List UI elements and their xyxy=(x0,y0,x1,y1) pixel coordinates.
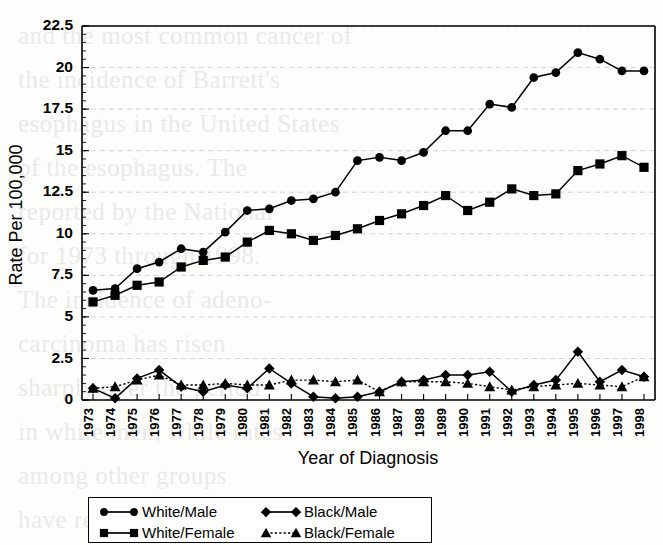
data-point xyxy=(330,393,341,404)
data-point xyxy=(352,375,363,385)
data-point xyxy=(88,297,97,306)
x-tick-label: 1994 xyxy=(544,407,559,437)
x-tick-label: 1991 xyxy=(478,408,493,437)
legend-row: White/Female Black/Female xyxy=(99,522,423,543)
x-tick-label: 1995 xyxy=(566,408,581,437)
x-axis-tick-labels: 1973197419751976197719781979198019811982… xyxy=(81,407,647,437)
legend-entry-white-male: White/Male xyxy=(99,503,261,520)
data-point xyxy=(484,381,495,391)
x-tick-label: 1987 xyxy=(390,408,405,437)
data-point xyxy=(331,188,340,197)
y-tick-label: 5 xyxy=(64,307,73,324)
data-point xyxy=(419,201,428,210)
data-point xyxy=(551,68,560,77)
data-point xyxy=(529,73,538,82)
data-point xyxy=(199,248,208,257)
y-tick-label: 17.5 xyxy=(43,99,74,116)
y-tick-label: 12.5 xyxy=(43,182,74,199)
gridlines xyxy=(82,26,655,358)
data-point xyxy=(265,204,274,213)
data-point xyxy=(309,195,318,204)
data-point xyxy=(353,156,362,165)
legend-entry-black-male: Black/Male xyxy=(261,503,423,520)
data-point xyxy=(89,286,98,295)
data-point xyxy=(155,258,164,267)
data-point xyxy=(595,159,604,168)
y-axis-title: Rate Per 100,000 xyxy=(6,144,26,285)
x-tick-label: 1974 xyxy=(103,407,118,437)
chart-legend: White/Male Black/Male White/Female Black… xyxy=(88,497,432,543)
data-point xyxy=(155,277,164,286)
x-tick-label: 1993 xyxy=(522,408,537,437)
data-point xyxy=(397,156,406,165)
chart-container: and the most common cancer ofthe inciden… xyxy=(0,0,663,545)
x-tick-label: 1992 xyxy=(500,408,515,437)
x-axis-title: Year of Diagnosis xyxy=(298,448,438,468)
series-white-male xyxy=(89,48,649,294)
legend-marker-diamond-icon xyxy=(261,505,301,519)
legend-label: Black/Male xyxy=(304,503,377,520)
series-black-male xyxy=(88,347,649,404)
data-point xyxy=(353,224,362,233)
y-tick-label: 2.5 xyxy=(51,349,73,366)
y-tick-label: 7.5 xyxy=(51,265,73,282)
data-point xyxy=(331,231,340,240)
axes xyxy=(82,26,655,400)
data-point xyxy=(110,381,121,391)
data-point xyxy=(441,126,450,135)
y-tick-label: 15 xyxy=(56,141,74,158)
data-point xyxy=(618,67,627,76)
legend-label: White/Female xyxy=(142,524,235,541)
data-point xyxy=(441,191,450,200)
x-tick-label: 1989 xyxy=(434,408,449,437)
x-tick-label: 1983 xyxy=(301,408,316,437)
data-point xyxy=(639,163,648,172)
data-point xyxy=(507,184,516,193)
legend-label: Black/Female xyxy=(304,524,395,541)
data-point xyxy=(507,103,516,112)
data-point xyxy=(617,365,628,376)
legend-marker-square-icon xyxy=(99,526,139,540)
data-point xyxy=(485,100,494,109)
x-tick-label: 1988 xyxy=(412,408,427,437)
data-point xyxy=(220,378,231,388)
data-point xyxy=(287,229,296,238)
legend-row: White/Male Black/Male xyxy=(99,501,423,522)
x-tick-label: 1982 xyxy=(279,408,294,437)
x-tick-label: 1979 xyxy=(213,408,228,437)
y-tick-label: 10 xyxy=(56,224,73,241)
x-tick-label: 1990 xyxy=(456,408,471,437)
data-point xyxy=(177,244,186,253)
data-point xyxy=(243,206,252,215)
data-point xyxy=(573,48,582,57)
data-point xyxy=(265,226,274,235)
data-series-group xyxy=(88,48,650,403)
data-point xyxy=(286,375,297,385)
data-point xyxy=(309,236,318,245)
series-white-female xyxy=(88,151,648,306)
y-tick-label: 0 xyxy=(64,390,73,407)
x-tick-label: 1975 xyxy=(125,408,140,437)
legend-entry-black-female: Black/Female xyxy=(261,524,423,541)
data-point xyxy=(221,228,230,237)
y-axis-tick-labels: 02.557.51012.51517.52022.5 xyxy=(43,16,74,407)
data-point xyxy=(133,264,142,273)
data-point xyxy=(375,153,384,162)
data-point xyxy=(221,252,230,261)
data-point xyxy=(110,291,119,300)
x-tick-label: 1980 xyxy=(235,408,250,437)
data-point xyxy=(485,198,494,207)
data-point xyxy=(572,378,583,388)
x-tick-label: 1977 xyxy=(169,408,184,437)
data-point xyxy=(640,67,649,76)
y-tick-label: 20 xyxy=(56,58,73,75)
data-point xyxy=(616,381,627,391)
data-point xyxy=(419,148,428,157)
data-point xyxy=(551,189,560,198)
data-point xyxy=(375,216,384,225)
data-point xyxy=(199,256,208,265)
data-point xyxy=(177,262,186,271)
data-point xyxy=(463,126,472,135)
data-point xyxy=(287,196,296,205)
data-point xyxy=(573,166,582,175)
